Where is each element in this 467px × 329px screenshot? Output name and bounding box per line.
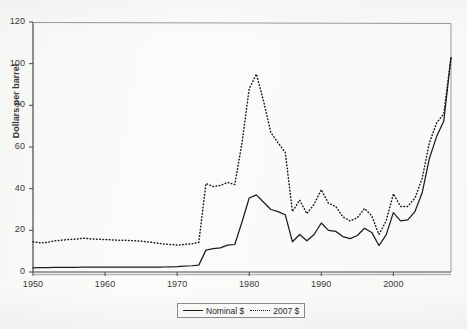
y-tick-label: 100 bbox=[0, 58, 25, 68]
legend-item-2007: 2007 $ bbox=[250, 306, 299, 316]
x-tick-label: 1970 bbox=[160, 279, 194, 289]
legend-label: 2007 $ bbox=[273, 306, 299, 316]
legend-swatch-dotted-icon bbox=[250, 310, 270, 311]
x-tick-label: 2000 bbox=[376, 279, 410, 289]
series-line-nominal bbox=[33, 57, 451, 267]
y-tick-label: 40 bbox=[0, 183, 25, 193]
chart-legend: Nominal $2007 $ bbox=[177, 303, 305, 318]
x-tick-label: 1950 bbox=[16, 279, 50, 289]
axis-lines bbox=[33, 22, 451, 275]
legend-label: Nominal $ bbox=[206, 306, 244, 316]
x-tick-label: 1990 bbox=[304, 279, 338, 289]
legend-swatch-solid-icon bbox=[183, 310, 203, 312]
y-tick-label: 80 bbox=[0, 99, 25, 109]
series-line-2007 bbox=[33, 57, 451, 245]
legend-item-nominal: Nominal $ bbox=[183, 306, 244, 316]
y-tick-label: 120 bbox=[0, 16, 25, 26]
chart-container: Dollars per barrel 020406080100120 19501… bbox=[0, 0, 467, 329]
y-tick-label: 20 bbox=[0, 224, 25, 234]
x-tick-label: 1960 bbox=[88, 279, 122, 289]
x-tick-label: 1980 bbox=[232, 279, 266, 289]
series-paths bbox=[33, 57, 451, 267]
y-tick-label: 60 bbox=[0, 141, 25, 151]
y-tick-label: 0 bbox=[0, 266, 25, 276]
